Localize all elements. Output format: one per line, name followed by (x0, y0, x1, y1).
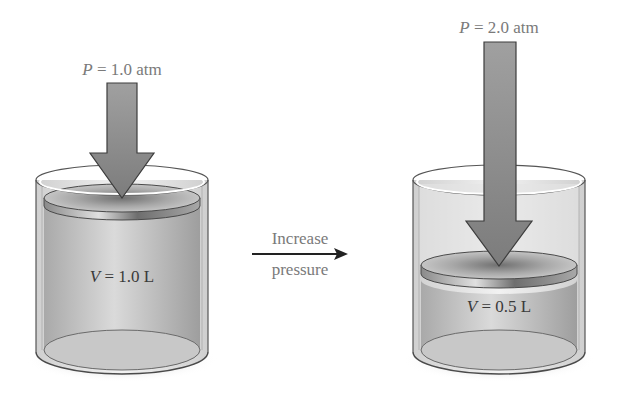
left-volume-label: V = 1.0 L (90, 267, 154, 286)
right-base (421, 330, 577, 370)
right-pressure-arrow (466, 42, 532, 266)
right-volume-label: V = 0.5 L (467, 297, 531, 316)
left-base (44, 330, 200, 370)
right-pressure-label: P = 2.0 atm (458, 18, 538, 37)
transition-label-line1: Increase (272, 229, 329, 248)
left-pressure-label: P = 1.0 atm (81, 60, 161, 79)
transition-arrow (252, 248, 348, 260)
boyles-law-diagram: P = 1.0 atm V = 1.0 L Increase pressure … (0, 0, 620, 396)
down-arrow-icon (466, 42, 532, 266)
transition-label-line2: pressure (272, 260, 329, 279)
